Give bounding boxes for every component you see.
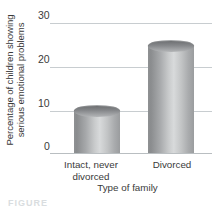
- bar-top-ellipse: [148, 40, 194, 51]
- y-axis-title-line-1: Percentage of children showing: [4, 15, 16, 146]
- bar-top-ellipse: [74, 105, 120, 116]
- plot-area: 30 20 10 0: [38, 8, 217, 158]
- xtick-label-intact-never-divorced: Intact, never divorced: [52, 159, 130, 182]
- y-axis-title: Percentage of children showing serious e…: [0, 0, 30, 160]
- bar-divorced: [148, 45, 194, 153]
- xtick-label-line-2: divorced: [52, 171, 130, 183]
- gridline-0-baseline: [50, 153, 212, 154]
- xtick-label-line-1: Divorced: [133, 159, 211, 171]
- bar-chart-figure: Percentage of children showing serious e…: [0, 0, 217, 208]
- ytick-label-30: 30: [38, 10, 64, 21]
- ytick-label-0: 0: [44, 141, 70, 152]
- x-axis-title: Type of family: [38, 182, 217, 193]
- bar-body: [148, 45, 194, 153]
- y-axis-title-line-2: serious emotional problems: [15, 23, 27, 138]
- bar-top-inner-ellipse: [74, 106, 120, 117]
- ytick-label-20: 20: [38, 54, 64, 65]
- gridline-30: [50, 23, 212, 24]
- figure-caption-fragment: FIGURE: [8, 198, 128, 208]
- xtick-label-line-1: Intact, never: [52, 159, 130, 171]
- bar-top-inner-ellipse: [148, 41, 194, 52]
- xtick-label-divorced: Divorced: [133, 159, 211, 171]
- bar-intact-never-divorced: [74, 110, 120, 153]
- ytick-label-10: 10: [38, 98, 64, 109]
